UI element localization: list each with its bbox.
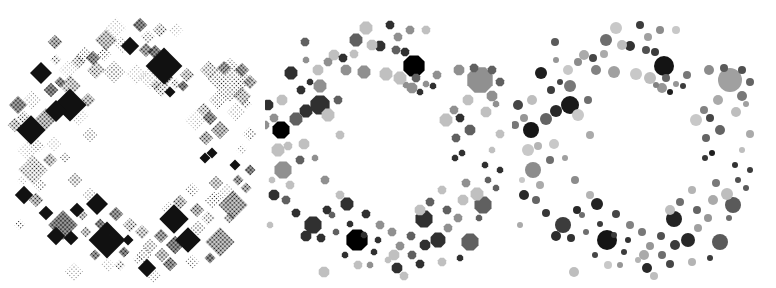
octagon [297, 86, 305, 94]
octagon [385, 257, 391, 263]
octagon [400, 272, 408, 280]
octagon [388, 228, 396, 236]
circle [591, 198, 603, 210]
circle [667, 89, 673, 95]
circle [608, 66, 620, 78]
octagon [423, 81, 429, 87]
circle [638, 228, 646, 236]
circle [586, 191, 594, 199]
octagon [426, 198, 434, 206]
circle [709, 150, 715, 156]
octagon [471, 188, 484, 201]
octagon [273, 122, 290, 139]
octagon [267, 222, 273, 228]
circle [574, 58, 582, 66]
octagon [417, 89, 423, 95]
circle [653, 82, 659, 88]
circle [617, 262, 623, 268]
octagon [321, 176, 329, 184]
circle [525, 162, 541, 178]
octagon [458, 195, 469, 206]
circle [563, 65, 573, 75]
dither-blob [103, 61, 125, 83]
dither-blob [141, 30, 156, 45]
circle [680, 83, 686, 89]
octagon [375, 237, 381, 243]
octagon [497, 167, 503, 173]
octagon [270, 114, 278, 122]
circle [657, 232, 665, 240]
octagon [454, 65, 465, 76]
octagon [403, 55, 424, 76]
circle [592, 252, 598, 258]
circle [562, 155, 568, 161]
circle [572, 109, 584, 121]
circle [739, 147, 745, 153]
circle [720, 64, 728, 72]
dither-blob [204, 252, 215, 263]
circle [670, 240, 680, 250]
circle [712, 234, 728, 250]
panel-posterized [265, 0, 512, 288]
circle [551, 231, 561, 241]
circle [520, 114, 528, 122]
circle-ring-dithered [0, 0, 265, 288]
circle [625, 237, 631, 243]
circle [746, 78, 754, 86]
circle [547, 86, 555, 94]
octagon [459, 150, 465, 156]
circle [604, 261, 612, 269]
octagon [371, 249, 377, 255]
octagon [482, 162, 488, 168]
octagon [431, 233, 446, 248]
octagon [284, 142, 292, 150]
octagon [440, 114, 453, 127]
circle [584, 96, 592, 104]
circle [656, 26, 664, 34]
dither-blob [114, 259, 125, 270]
circle [579, 50, 589, 60]
circle [519, 177, 525, 183]
octagon [433, 71, 441, 79]
octagon [367, 40, 378, 51]
circle [700, 106, 708, 114]
octagon [272, 144, 285, 157]
octagon [394, 33, 402, 41]
octagon [312, 155, 318, 161]
circle [522, 144, 534, 156]
circle [610, 22, 622, 34]
circle [644, 33, 652, 41]
octagon [350, 34, 363, 47]
circle [712, 179, 720, 187]
circle [646, 242, 654, 250]
circle [666, 260, 674, 268]
dither-blob [169, 23, 184, 38]
octagon [333, 229, 339, 235]
circle [523, 122, 539, 138]
dither-blob [240, 182, 251, 193]
circle [693, 206, 701, 214]
circle [681, 233, 695, 247]
circle [650, 272, 658, 280]
octagon [286, 181, 294, 189]
circle [654, 56, 674, 76]
circle [630, 68, 642, 80]
dither-blob [65, 263, 83, 281]
octagon [292, 209, 300, 217]
octagon [456, 114, 464, 122]
octagon [452, 134, 460, 142]
dither-blob [199, 131, 214, 146]
octagon [301, 38, 309, 46]
octagon [462, 179, 470, 187]
octagon [265, 100, 273, 111]
dither-blob [180, 68, 195, 83]
octagon [457, 255, 463, 261]
circle [704, 65, 714, 75]
octagon [347, 221, 353, 227]
octagon [336, 131, 344, 139]
octagon [376, 221, 384, 229]
circle [665, 205, 675, 215]
octagon [329, 212, 335, 218]
octagon [367, 262, 373, 268]
dither-blob [89, 249, 100, 260]
